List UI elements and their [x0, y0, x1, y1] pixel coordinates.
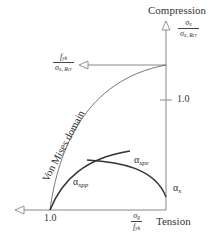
yield-line-arrow-icon — [79, 61, 88, 69]
alpha-xpp-label: αxpp — [73, 176, 88, 189]
horizontal-axis-arrow-icon — [15, 206, 24, 214]
vertical-axis-arrow-icon — [162, 21, 170, 30]
alpha-xpe-curve — [87, 160, 166, 197]
vertical-tick-label: 1.0 — [177, 93, 190, 104]
yield-fraction: fyk σx, Rcr — [53, 53, 74, 72]
horizontal-axis-fraction: σg fyk — [131, 212, 142, 231]
compression-label: Compression — [148, 4, 206, 16]
tension-label: Tension — [156, 215, 191, 227]
alpha-xpe-label: αxpe — [134, 154, 149, 167]
vertical-axis-fraction: σx σx, Rcr — [178, 19, 199, 38]
alpha-x-label: αx — [173, 182, 181, 195]
horizontal-tick-label: 1.0 — [44, 212, 57, 223]
